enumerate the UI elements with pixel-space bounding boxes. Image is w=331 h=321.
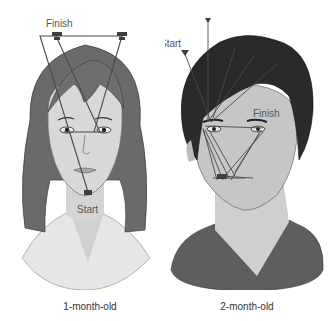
panel-2-month-old: Start Finish 2-month-old [165, 0, 331, 321]
fixation-marker [217, 174, 227, 179]
female-face-illustration: Finish Start [0, 0, 165, 290]
finish-label: Finish [253, 108, 280, 119]
finish-label: Finish [46, 18, 73, 29]
top-fixation-marker [205, 18, 211, 23]
caption-2-month-old: 2-month-old [187, 301, 307, 312]
start-label: Start [77, 204, 98, 215]
start-label: Start [165, 38, 181, 49]
left-pupil [212, 127, 216, 131]
caption-1-month-old: 1-month-old [30, 301, 150, 312]
male-face-illustration: Start Finish [165, 0, 331, 290]
panel-1-month-old: Finish Start 1-month-old [0, 0, 165, 321]
start-arrow-icon [181, 50, 189, 56]
